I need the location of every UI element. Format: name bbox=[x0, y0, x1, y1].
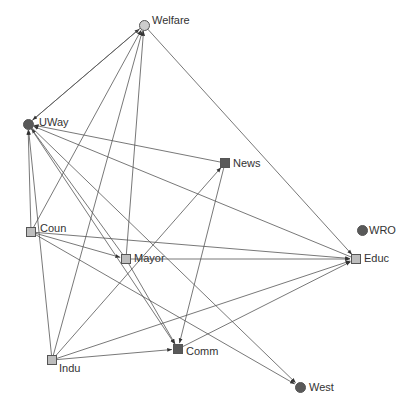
edge-coun-to-welfare bbox=[33, 30, 141, 227]
edge-welfare-to-uway bbox=[33, 28, 141, 120]
edge-indu-to-uway bbox=[29, 130, 52, 355]
node-label-coun: Coun bbox=[40, 222, 66, 234]
node-label-indu: Indu bbox=[59, 362, 80, 374]
edge-indu-to-welfare bbox=[53, 31, 142, 355]
node-label-west: West bbox=[309, 381, 334, 393]
edge-comm-to-educ bbox=[182, 262, 350, 347]
edge-educ-to-uway bbox=[34, 126, 352, 257]
node-educ-square-icon bbox=[351, 254, 361, 264]
edge-indu-to-educ bbox=[57, 261, 351, 359]
node-label-uway: UWay bbox=[39, 116, 69, 128]
node-mayor-square-icon bbox=[121, 254, 131, 264]
node-news-square-icon bbox=[220, 158, 230, 168]
node-coun-square-icon bbox=[26, 227, 36, 237]
node-label-welfare: Welfare bbox=[152, 14, 190, 26]
node-label-comm: Comm bbox=[186, 345, 218, 357]
edge-coun-to-mayor bbox=[36, 233, 120, 257]
edge-uway-to-comm bbox=[31, 128, 175, 344]
edge-mayor-to-comm bbox=[129, 263, 175, 343]
node-wro-circle-icon bbox=[357, 225, 368, 236]
node-indu-square-icon bbox=[47, 355, 57, 365]
edge-indu-to-comm bbox=[57, 350, 172, 360]
node-comm-square-icon bbox=[173, 344, 183, 354]
node-uway-circle-icon bbox=[23, 119, 34, 130]
node-label-mayor: Mayor bbox=[134, 252, 165, 264]
node-label-news: News bbox=[233, 157, 261, 169]
network-diagram: WelfareUWayNewsCounMayorWROEducInduCommW… bbox=[0, 0, 411, 412]
edge-news-to-comm bbox=[179, 168, 223, 343]
node-welfare-circle-icon bbox=[139, 20, 150, 31]
node-west-circle-icon bbox=[295, 382, 306, 393]
node-label-educ: Educ bbox=[364, 252, 389, 264]
node-label-wro: WRO bbox=[369, 224, 396, 236]
edge-welfare-to-educ bbox=[147, 29, 352, 255]
edge-mayor-to-welfare bbox=[126, 31, 143, 254]
